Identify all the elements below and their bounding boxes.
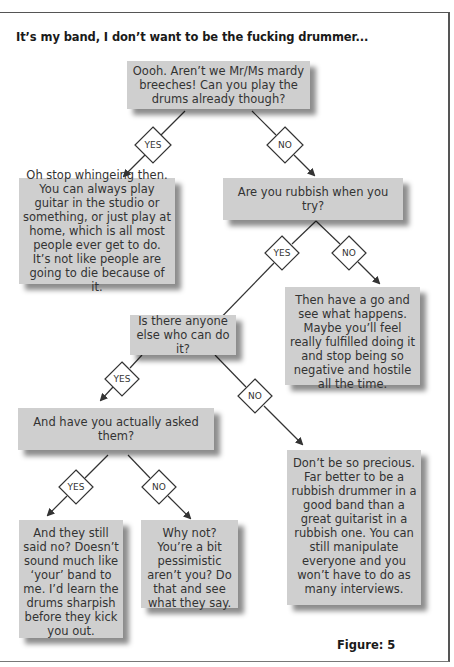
- node-can-you-play-drums: Oooh. Aren’t we Mr/Ms mardy breeches! Ca…: [127, 61, 310, 109]
- node-are-you-rubbish: Are you rubbish when you try?: [223, 178, 403, 220]
- decision-yes-label: YES: [267, 248, 297, 258]
- decision-no-label: NO: [144, 482, 174, 492]
- node-they-still-said-no: And they still said no? Doesn’t sound mu…: [19, 520, 123, 638]
- decision-yes-label: YES: [138, 140, 168, 150]
- decision-no-label: NO: [240, 391, 270, 401]
- node-stop-whingeing: Oh stop whingeing then. You can always p…: [19, 178, 175, 284]
- node-why-not: Why not? You’re a bit pessimistic aren’t…: [141, 520, 238, 608]
- figure-label: Figure: 5: [337, 638, 395, 652]
- decision-no-label: NO: [270, 140, 300, 150]
- decision-yes-label: YES: [107, 374, 137, 384]
- decision-yes-label: YES: [61, 482, 91, 492]
- node-dont-be-precious: Don’t be so precious. Far better to be a…: [287, 450, 421, 605]
- node-have-a-go: Then have a go and see what happens. May…: [285, 287, 420, 385]
- decision-no-label: NO: [334, 248, 364, 258]
- node-anyone-else: Is there anyone else who can do it?: [130, 315, 236, 355]
- node-have-you-asked: And have you actually asked them?: [18, 408, 214, 450]
